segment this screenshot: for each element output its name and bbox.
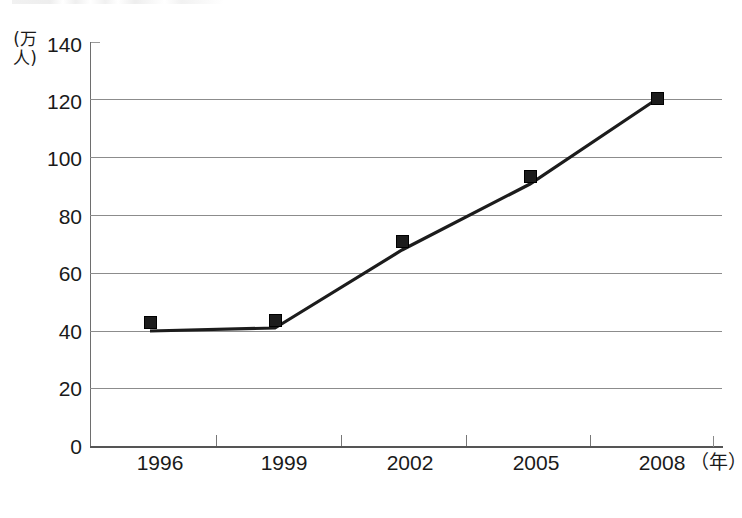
gridline-120 — [90, 99, 722, 100]
x-tick-mark-1 — [216, 435, 217, 446]
y-tick-label-140: 140 — [30, 34, 82, 55]
gridline-20 — [90, 388, 722, 389]
line-chart-figure: (万 人) 140 120 100 80 60 40 20 0 1996 199… — [0, 0, 742, 518]
x-tick-label-1996: 1996 — [100, 452, 220, 473]
x-tick-mark-2 — [341, 435, 342, 446]
x-tick-label-1999: 1999 — [224, 452, 344, 473]
gridline-80 — [90, 215, 722, 216]
data-point-2008 — [651, 92, 664, 105]
gridline-100 — [90, 157, 722, 158]
data-point-1996 — [144, 316, 157, 329]
x-axis-line — [90, 446, 723, 448]
gridline-60 — [90, 273, 722, 274]
y-tick-label-40: 40 — [30, 321, 82, 342]
y-tick-label-20: 20 — [30, 378, 82, 399]
data-point-1999 — [269, 314, 282, 327]
x-tick-mark-3 — [466, 435, 467, 446]
y-tick-label-0: 0 — [30, 436, 82, 457]
data-point-2005 — [524, 170, 537, 183]
x-tick-label-2002: 2002 — [350, 452, 470, 473]
x-tick-label-2005: 2005 — [476, 452, 596, 473]
x-axis-unit-label: （年） — [690, 452, 742, 473]
y-tick-label-120: 120 — [30, 91, 82, 112]
y-tick-label-80: 80 — [30, 206, 82, 227]
y-tick-label-100: 100 — [30, 148, 82, 169]
gridline-40 — [90, 331, 722, 332]
data-point-2002 — [396, 235, 409, 248]
y-tick-label-60: 60 — [30, 263, 82, 284]
x-tick-mark-4 — [590, 435, 591, 446]
